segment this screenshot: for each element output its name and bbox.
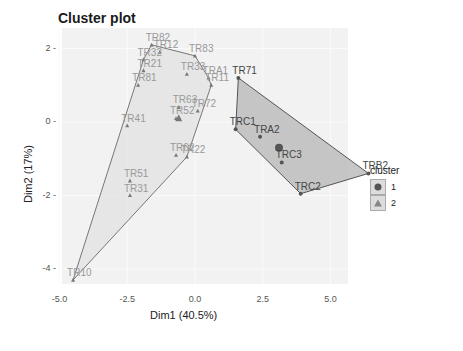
triangle-marker-icon	[370, 195, 386, 211]
y-tick-label: 0 -	[36, 116, 56, 126]
x-tick-label: 0.0	[180, 294, 210, 304]
svg-text:TR81: TR81	[132, 72, 157, 83]
x-axis-label: Dim1 (40.5%)	[150, 309, 217, 321]
legend-item-cluster-1: 1	[370, 179, 399, 195]
y-tick-label: -4 -	[36, 263, 56, 273]
legend-item-cluster-2: 2	[370, 195, 399, 211]
y-tick-label: 2 -	[36, 43, 56, 53]
legend-title: cluster	[370, 165, 399, 176]
svg-text:TR71: TR71	[232, 65, 257, 76]
svg-text:TRC1: TRC1	[230, 116, 257, 127]
y-tick-label: -2 -	[36, 190, 56, 200]
svg-text:TR31: TR31	[124, 183, 149, 194]
svg-text:TRC2: TRC2	[295, 181, 322, 192]
y-axis-label: Dim2 (17%)	[22, 134, 34, 214]
svg-text:TR32: TR32	[138, 47, 163, 58]
svg-text:TR21: TR21	[138, 58, 163, 69]
legend-label: 1	[391, 182, 396, 192]
svg-text:TRC3: TRC3	[276, 149, 303, 160]
legend-label: 2	[391, 198, 396, 208]
svg-text:TR51: TR51	[124, 168, 149, 179]
svg-text:TR72: TR72	[192, 98, 217, 109]
svg-text:TR52: TR52	[170, 105, 195, 116]
svg-text:TR10: TR10	[67, 267, 92, 278]
svg-text:TR22: TR22	[181, 144, 206, 155]
svg-text:TR83: TR83	[189, 43, 214, 54]
legend: cluster 1 2	[370, 165, 399, 211]
svg-text:TR11: TR11	[205, 72, 229, 83]
x-tick-label: 2.5	[248, 294, 278, 304]
x-tick-label: -5.0	[45, 294, 75, 304]
svg-text:TR41: TR41	[121, 113, 146, 124]
svg-text:TRA2: TRA2	[254, 124, 280, 135]
circle-marker-icon	[370, 179, 386, 195]
x-tick-label: -2.5	[112, 294, 142, 304]
x-tick-label: 5.0	[316, 294, 346, 304]
